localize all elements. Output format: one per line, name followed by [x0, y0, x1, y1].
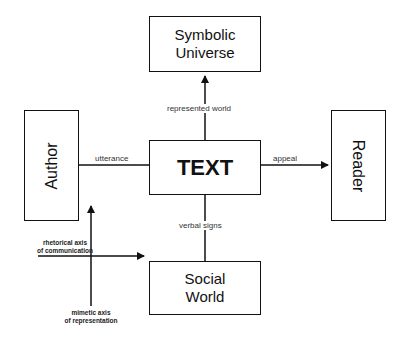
social-world-node: Social World — [149, 261, 261, 315]
reader-label: Reader — [349, 139, 367, 191]
reader-node: Reader — [331, 110, 386, 221]
text-node: TEXT — [149, 140, 261, 195]
mimetic-axis-label: mimetic axis of representation — [58, 309, 124, 325]
author-label: Author — [42, 142, 60, 189]
mimetic-axis-line-2: of representation — [58, 317, 124, 325]
symbolic-universe-node: Symbolic Universe — [149, 16, 261, 72]
text-label: TEXT — [177, 155, 233, 181]
author-node: Author — [24, 110, 79, 221]
utterance-label: utterance — [94, 154, 129, 163]
verbal-signs-label: verbal signs — [178, 221, 223, 230]
rhetorical-axis-line-1: rhetorical axis — [34, 239, 96, 247]
social-world-label-1: Social — [185, 270, 226, 288]
symbolic-universe-label-2: Universe — [175, 44, 236, 62]
rhetorical-axis-label: rhetorical axis of communication — [34, 239, 96, 255]
appeal-label: appeal — [272, 154, 298, 163]
symbolic-universe-label-1: Symbolic — [175, 26, 236, 44]
rhetorical-axis-line-2: of communication — [34, 247, 96, 255]
mimetic-axis-line-1: mimetic axis — [58, 309, 124, 317]
social-world-label-2: World — [185, 288, 226, 306]
represented-world-label: represented world — [166, 104, 232, 113]
